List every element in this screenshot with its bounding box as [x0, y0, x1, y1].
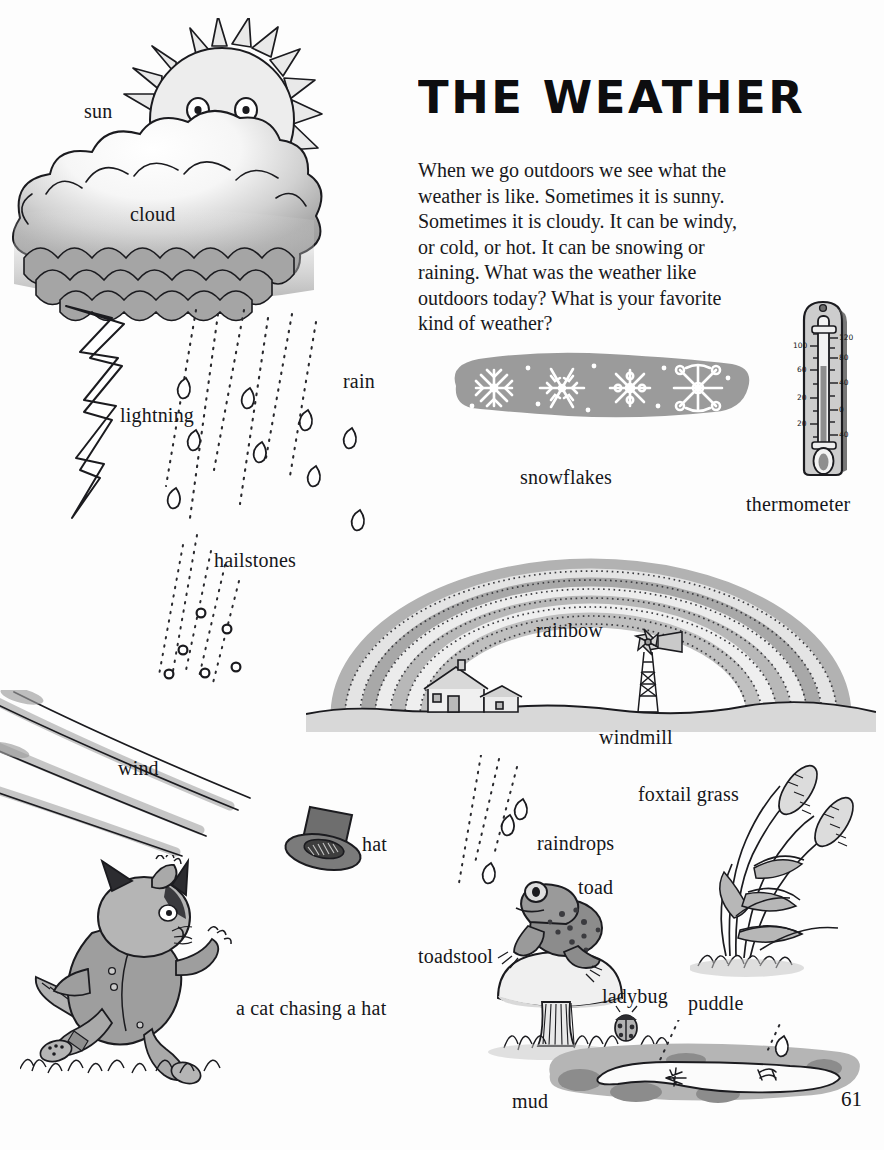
label-mud: mud — [512, 1090, 548, 1113]
label-lightning: lightning — [120, 404, 194, 427]
thermometer-illustration: 120 80 40 0 40 100 60 20 20 — [790, 294, 866, 482]
therm-mark-120: 120 — [839, 333, 854, 342]
dictionary-page: THE WEATHER When we go outdoors we see w… — [0, 0, 884, 1150]
label-windmill: windmill — [599, 726, 673, 749]
therm-mark-neg40: 40 — [839, 430, 849, 439]
cat-illustration — [20, 855, 270, 1095]
therm-mark-20: 20 — [797, 393, 807, 402]
label-puddle: puddle — [688, 992, 744, 1015]
label-thermometer: thermometer — [746, 493, 850, 516]
label-wind: wind — [118, 757, 159, 780]
label-hailstones: hailstones — [214, 549, 296, 572]
wind-illustration — [0, 690, 320, 880]
label-raindrops: raindrops — [537, 832, 614, 855]
therm-mark-40: 40 — [839, 378, 849, 387]
hat-illustration — [282, 795, 372, 885]
label-cloud: cloud — [130, 203, 175, 226]
label-toadstool: toadstool — [418, 945, 493, 968]
label-foxtail-grass: foxtail grass — [638, 783, 739, 806]
label-rain: rain — [343, 370, 375, 393]
label-rainbow: rainbow — [536, 619, 603, 642]
therm-mark-0: 0 — [839, 405, 844, 414]
page-number: 61 — [841, 1087, 862, 1112]
puddle-mud-illustration — [540, 1020, 860, 1120]
page-title: THE WEATHER — [418, 72, 805, 123]
sun-cloud-storm-illustration — [0, 18, 400, 538]
label-toad: toad — [578, 876, 613, 899]
label-cat-chasing-hat: a cat chasing a hat — [236, 997, 386, 1020]
therm-mark-60: 60 — [797, 365, 807, 374]
label-hat: hat — [362, 833, 387, 856]
label-snowflakes: snowflakes — [520, 466, 612, 489]
therm-mark-80: 80 — [839, 353, 849, 362]
label-sun: sun — [84, 100, 112, 123]
label-ladybug: ladybug — [602, 985, 668, 1008]
body-paragraph: When we go outdoors we see what the weat… — [418, 158, 738, 337]
therm-mark-neg20: 20 — [797, 419, 807, 428]
therm-mark-100: 100 — [793, 341, 808, 350]
snowflakes-illustration — [442, 348, 750, 430]
